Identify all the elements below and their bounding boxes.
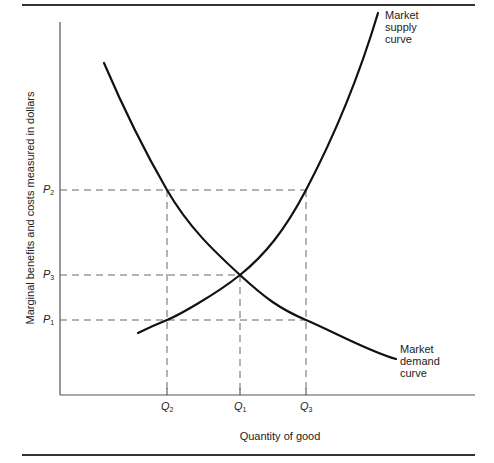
supply-curve-label: Market supply curve [385,9,419,45]
y-axis-title: Marginal benefits and costs measured in … [24,92,36,325]
tick-label-q2: Q2 [161,400,173,413]
p1-subscript: 1 [50,319,54,326]
tick-label-p2: P2 [43,183,54,196]
tick-label-q1: Q1 [234,400,246,413]
chart-canvas [0,0,494,463]
q3-letter: Q [300,400,309,412]
demand-curve [104,63,396,359]
q2-subscript: 2 [170,406,174,413]
q3-subscript: 3 [309,406,313,413]
q2-letter: Q [161,400,170,412]
q1-subscript: 1 [243,406,247,413]
p3-subscript: 3 [50,274,54,281]
tick-label-q3: Q3 [300,400,312,413]
q1-letter: Q [234,400,243,412]
p2-subscript: 2 [50,189,54,196]
demand-curve-label: Market demand curve [400,343,440,379]
supply-curve [138,13,378,333]
x-axis-title: Quantity of good [240,430,321,442]
tick-label-p3: P3 [43,268,54,281]
reference-lines [60,190,306,395]
tick-label-p1: P1 [43,313,54,326]
